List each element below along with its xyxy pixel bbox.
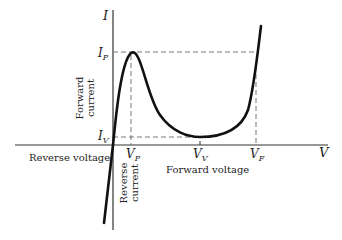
svg-text:Reverse: Reverse xyxy=(118,163,129,204)
vv-label: VV xyxy=(193,147,209,163)
dashed-guides xyxy=(113,52,256,145)
y-axis-label: I xyxy=(102,8,109,23)
reverse-current-label: Reverse current xyxy=(118,163,140,204)
ip-label: IP xyxy=(97,46,109,62)
vp-label: VP xyxy=(126,147,141,163)
tunnel-diode-iv-diagram: I V IP IV VP VV VF Forward current Rever… xyxy=(0,0,342,240)
diagram-canvas: I V IP IV VP VV VF Forward current Rever… xyxy=(0,0,342,240)
svg-text:current: current xyxy=(129,164,140,202)
svg-text:Forward: Forward xyxy=(74,76,85,119)
forward-current-label: Forward current xyxy=(74,76,96,119)
svg-text:current: current xyxy=(85,79,96,117)
reverse-voltage-label: Reverse voltage xyxy=(29,152,110,163)
vf-label: VF xyxy=(250,147,265,163)
iv-label: IV xyxy=(97,129,110,145)
x-axis-label: V xyxy=(319,145,330,160)
forward-voltage-label: Forward voltage xyxy=(166,164,249,175)
